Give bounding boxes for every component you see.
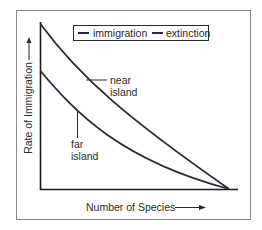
far-island-label-line2: island <box>71 150 99 162</box>
chart-frame <box>17 11 251 220</box>
legend: immigration extinction <box>74 26 211 41</box>
near-island-label-line1: near <box>110 74 132 86</box>
y-axis-label: Rate of Immigration <box>22 62 34 154</box>
x-axis-label: Number of Species <box>86 201 175 213</box>
legend-label-immigration: immigration <box>93 27 147 39</box>
far-island-label-line1: far <box>71 138 84 150</box>
near-island-label-line2: island <box>110 86 138 98</box>
species-immigration-chart: immigration extinction near island far i… <box>0 0 262 230</box>
legend-label-extinction: extinction <box>166 27 211 39</box>
